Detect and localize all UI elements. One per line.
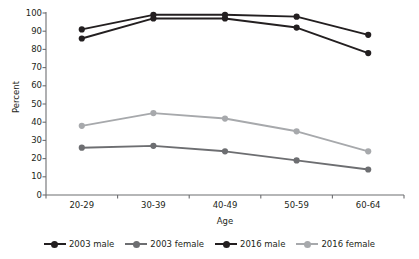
series-marker: [79, 123, 85, 129]
series-marker: [294, 24, 300, 30]
legend-item[interactable]: 2003 male: [44, 239, 114, 249]
legend-dot: [223, 241, 230, 248]
legend-swatch-icon: [296, 240, 318, 249]
series-marker: [294, 14, 300, 20]
series-marker: [222, 148, 228, 154]
series-marker: [365, 32, 371, 38]
chart-legend: 2003 male2003 female2016 male2016 female: [0, 239, 419, 249]
legend-label: 2003 female: [150, 239, 204, 249]
series-marker: [79, 26, 85, 32]
series-marker: [79, 35, 85, 41]
series-marker: [365, 50, 371, 56]
series-marker: [79, 145, 85, 151]
legend-dot: [51, 241, 58, 248]
series-marker: [150, 12, 156, 18]
chart-plot: [0, 0, 419, 259]
series-marker: [365, 148, 371, 154]
legend-dot: [304, 241, 311, 248]
series-marker: [294, 128, 300, 134]
legend-item[interactable]: 2016 male: [215, 239, 285, 249]
series-marker: [222, 115, 228, 121]
chart-figure: 0102030405060708090100 Percent Age 20-29…: [0, 0, 419, 259]
series-marker: [222, 12, 228, 18]
legend-swatch-icon: [44, 240, 66, 249]
legend-swatch-icon: [125, 240, 147, 249]
series-marker: [365, 166, 371, 172]
series-marker: [294, 157, 300, 163]
legend-swatch-icon: [215, 240, 237, 249]
series-marker: [150, 143, 156, 149]
series-marker: [150, 110, 156, 116]
legend-label: 2016 male: [240, 239, 285, 249]
legend-label: 2016 female: [321, 239, 375, 249]
legend-dot: [133, 241, 140, 248]
legend-label: 2003 male: [69, 239, 114, 249]
legend-item[interactable]: 2003 female: [125, 239, 204, 249]
legend-item[interactable]: 2016 female: [296, 239, 375, 249]
